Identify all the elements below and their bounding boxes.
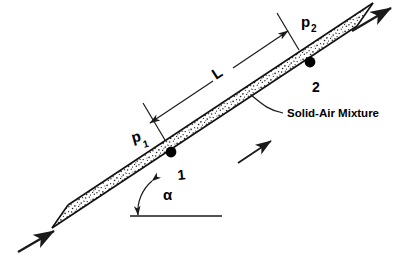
angle-arc-path	[138, 181, 152, 215]
pressure-1-label: p	[129, 127, 143, 146]
mixture-label: Solid-Air Mixture	[287, 107, 379, 119]
angle-label: α	[163, 186, 173, 203]
length-label: L	[208, 63, 225, 82]
diagram-root: α 1 2 p 1 p 2 L Solid-Ai	[0, 0, 414, 259]
pressure-2-label-group: p 2	[301, 13, 317, 34]
station-2-dot	[305, 57, 316, 68]
pressure-1-extension-line	[143, 103, 165, 140]
pressure-2-subscript: 2	[311, 23, 317, 34]
angle-arc	[138, 181, 152, 215]
station-1-label: 1	[177, 166, 187, 183]
mixture-leader-line	[251, 95, 283, 113]
pipe-lower-edge	[52, 26, 357, 228]
length-dimension-right-segment	[233, 31, 288, 68]
pressure-1-dimension	[143, 103, 165, 140]
station-2-label: 2	[312, 79, 320, 95]
pressure-1-subscript: 1	[142, 138, 151, 150]
pipe-upper-edge	[68, 3, 373, 205]
pipe-flow-diagram: α 1 2 p 1 p 2 L Solid-Ai	[0, 0, 414, 259]
flow-direction-arrow	[238, 141, 271, 163]
flow-in-arrow	[18, 231, 54, 252]
pressure-1-label-group: p 1	[129, 127, 150, 150]
pressure-2-label: p	[301, 13, 310, 30]
station-1-dot	[166, 147, 177, 158]
